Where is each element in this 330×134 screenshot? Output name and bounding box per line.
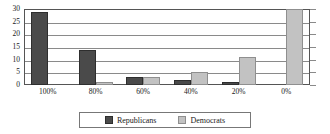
legend-item-democrats: Democrats	[178, 116, 225, 125]
y-tick-label: 10	[13, 56, 21, 64]
x-tick-label: 20%	[232, 87, 246, 96]
bar-chart: 051015202530 100%80%60%40%20%0% Republic…	[0, 0, 330, 134]
legend-swatch-democrats	[178, 116, 186, 124]
x-tick-label: 40%	[184, 87, 198, 96]
y-tick-mark	[310, 9, 316, 10]
legend-label-republicans: Republicans	[117, 116, 157, 125]
bar-democrats-20pct	[239, 57, 256, 85]
bar-republicans-100pct	[31, 12, 48, 85]
bar-group	[174, 9, 208, 85]
y-tick-label: 0	[16, 81, 20, 89]
legend-label-democrats: Democrats	[190, 116, 225, 125]
y-tick-label: 30	[13, 5, 21, 13]
y-tick-mark	[310, 72, 316, 73]
bar-group	[79, 9, 113, 85]
bar-group	[126, 9, 160, 85]
y-tick-label: 20	[13, 30, 21, 38]
y-tick-label: 25	[13, 18, 21, 26]
legend-item-republicans: Republicans	[105, 116, 157, 125]
y-tick-mark	[310, 34, 316, 35]
y-axis: 051015202530	[0, 0, 22, 95]
legend-swatch-republicans	[105, 116, 113, 124]
y-tick-label: 5	[16, 68, 20, 76]
bars-layer	[24, 9, 310, 85]
bar-group	[222, 9, 256, 85]
bar-republicans-20pct	[222, 82, 239, 85]
x-tick-label: 0%	[281, 87, 291, 96]
bar-democrats-0pct	[286, 9, 303, 85]
x-tick-label: 60%	[136, 87, 150, 96]
bar-republicans-40pct	[174, 80, 191, 85]
bar-group	[31, 9, 65, 85]
y-tick-label: 15	[13, 43, 21, 51]
x-tick-label: 80%	[89, 87, 103, 96]
y-tick-mark	[310, 22, 316, 23]
y-tick-mark	[310, 47, 316, 48]
bar-republicans-60pct	[126, 77, 143, 85]
y-tick-mark	[310, 60, 316, 61]
bar-republicans-80pct	[79, 50, 96, 85]
bar-democrats-40pct	[191, 72, 208, 85]
chart-legend: Republicans Democrats	[79, 112, 251, 128]
bar-group	[269, 9, 303, 85]
bar-democrats-80pct	[96, 82, 113, 85]
x-axis: 100%80%60%40%20%0%	[24, 87, 310, 99]
x-tick-label: 100%	[39, 87, 57, 96]
bar-democrats-60pct	[143, 77, 160, 85]
y-tick-mark	[310, 85, 316, 86]
